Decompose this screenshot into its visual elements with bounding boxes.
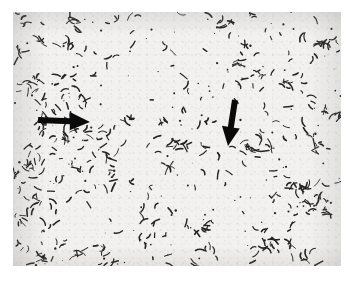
arrow-left-horizontal xyxy=(38,112,90,130)
arrow-center-vertical xyxy=(222,100,240,146)
figure-root xyxy=(0,0,354,282)
micrograph-plate xyxy=(13,12,341,266)
annotation-arrow-overlay xyxy=(13,12,341,266)
annotation-arrows-svg xyxy=(13,12,341,266)
